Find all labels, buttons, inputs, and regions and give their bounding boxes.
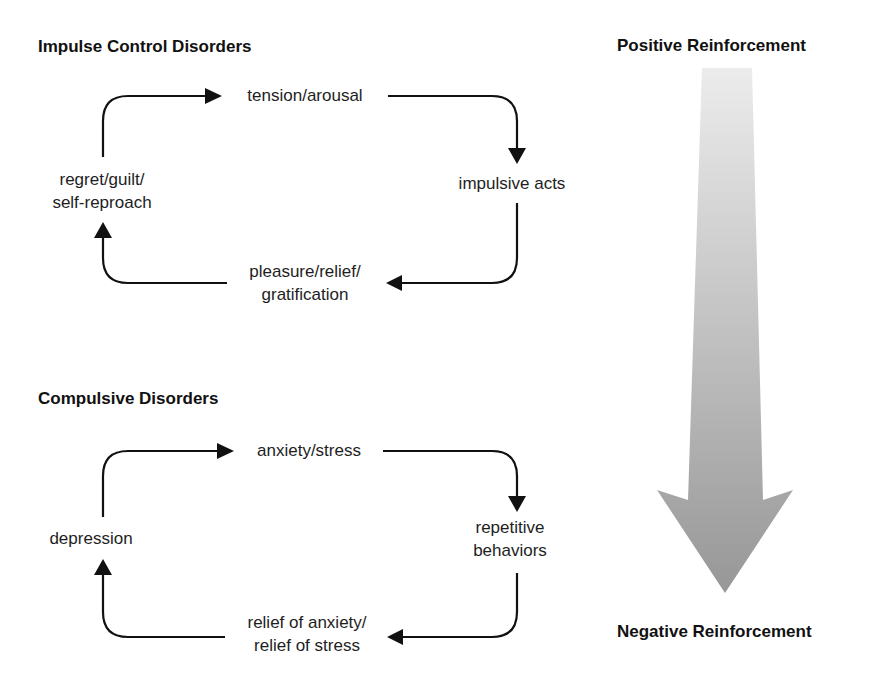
node-text: self-reproach (52, 191, 151, 214)
node-depression: depression (49, 527, 132, 550)
arrowhead-left-icon (386, 275, 402, 291)
arrow-impulsive-to-pleasure (400, 203, 517, 283)
node-text: behaviors (473, 539, 547, 562)
compulsive-cycle-arrows (103, 451, 517, 637)
reinforcement-gradient-arrow-icon (657, 68, 793, 593)
arrowhead-up-icon (94, 559, 112, 575)
negative-reinforcement-label: Negative Reinforcement (617, 622, 812, 642)
node-text: repetitive (473, 516, 547, 539)
node-text: anxiety/stress (257, 439, 361, 462)
node-tension-arousal: tension/arousal (247, 84, 362, 107)
node-regret-guilt-self-reproach: regret/guilt/ self-reproach (52, 168, 151, 214)
node-repetitive-behaviors: repetitive behaviors (473, 516, 547, 562)
node-relief-of-anxiety-stress: relief of anxiety/ relief of stress (247, 611, 366, 657)
node-text: gratification (249, 283, 361, 306)
arrowhead-left-icon (387, 629, 403, 645)
arrow-relief-to-depression (103, 573, 225, 637)
node-text: impulsive acts (459, 172, 566, 195)
arrowhead-down-icon (508, 148, 526, 164)
node-text: relief of anxiety/ (247, 611, 366, 634)
node-text: pleasure/relief/ (249, 260, 361, 283)
compulsive-title: Compulsive Disorders (38, 389, 218, 409)
positive-reinforcement-label: Positive Reinforcement (617, 36, 806, 56)
node-text: tension/arousal (247, 84, 362, 107)
node-pleasure-relief-gratification: pleasure/relief/ gratification (249, 260, 361, 306)
diagram-canvas (0, 0, 882, 684)
node-text: relief of stress (247, 634, 366, 657)
arrowhead-right-icon (205, 88, 222, 104)
arrowhead-up-icon (94, 222, 112, 238)
arrow-depression-to-anxiety (103, 451, 221, 517)
arrow-repetitive-to-relief (401, 573, 517, 637)
node-text: regret/guilt/ (52, 168, 151, 191)
arrow-anxiety-to-repetitive (383, 451, 517, 498)
node-text: depression (49, 527, 132, 550)
arrowhead-right-icon (217, 443, 234, 459)
node-anxiety-stress: anxiety/stress (257, 439, 361, 462)
arrow-regret-to-tension (103, 96, 210, 157)
node-impulsive-acts: impulsive acts (459, 172, 566, 195)
arrow-pleasure-to-regret (103, 236, 227, 283)
impulse-control-title: Impulse Control Disorders (38, 37, 251, 57)
impulse-cycle-arrows (103, 96, 517, 283)
arrow-tension-to-impulsive (388, 96, 517, 150)
arrowhead-down-icon (508, 496, 526, 512)
